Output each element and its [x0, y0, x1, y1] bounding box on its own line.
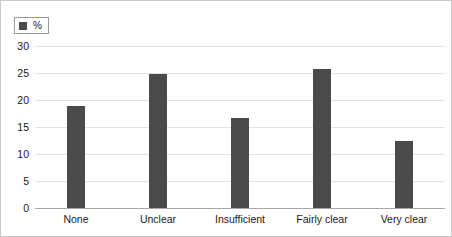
y-axis-tick-label: 15 [17, 121, 29, 133]
y-axis-tick-label: 5 [23, 175, 29, 187]
gridline [35, 208, 445, 209]
x-axis-tick-label: Unclear [140, 213, 176, 225]
bar [313, 69, 331, 208]
x-axis-tick-label: Fairly clear [296, 213, 347, 225]
y-axis-tick-label: 20 [17, 94, 29, 106]
x-axis-tick-label: Insufficient [215, 213, 265, 225]
bar [67, 106, 85, 208]
bar [395, 141, 413, 209]
y-axis-tick-label: 10 [17, 148, 29, 160]
bar-chart: % 302520151050 NoneUnclearInsufficientFa… [0, 0, 452, 237]
bar [149, 74, 167, 208]
legend-label: % [33, 21, 42, 31]
y-axis-tick-label: 25 [17, 67, 29, 79]
chart-legend: % [14, 17, 49, 34]
y-axis-tick-label: 30 [17, 40, 29, 52]
plot-area: 302520151050 [35, 46, 445, 208]
bar [231, 118, 249, 208]
bar-series [35, 46, 445, 208]
legend-color-swatch [19, 22, 27, 30]
y-axis-tick-label: 0 [23, 202, 29, 214]
x-axis-tick-label: Very clear [381, 213, 428, 225]
x-axis-tick-label: None [63, 213, 88, 225]
